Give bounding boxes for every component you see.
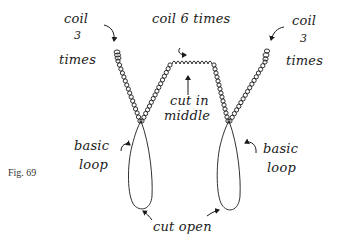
arrow-left-coil xyxy=(104,25,114,41)
left-coil-label-line2: 3 xyxy=(74,30,81,41)
right-loop-label-line1: basic xyxy=(263,142,298,155)
figure-caption: Fig. 69 xyxy=(8,168,36,178)
left-loop-label-line2: loop xyxy=(79,158,108,171)
left-loop-label-line1: basic xyxy=(74,139,109,152)
right-coil-label-line3: times xyxy=(286,54,323,67)
middle-coil xyxy=(172,61,212,64)
middle-coil-label: coil 6 times xyxy=(152,12,230,25)
left-coil-label-line3: times xyxy=(59,53,96,66)
cut-open-label: cut open xyxy=(153,220,212,233)
right-end-coil xyxy=(263,49,270,61)
arrow-right-loop xyxy=(245,142,256,153)
arrow-middle-coil xyxy=(179,48,186,55)
right-coil-label-line1: coil xyxy=(292,14,316,27)
wire-loop-diagram: coil 3 times coil 6 times coil 3 times c… xyxy=(0,0,338,243)
left-basic-loop xyxy=(128,121,152,209)
arrow-left-loop xyxy=(121,144,130,151)
left-coil-label-line1: coil xyxy=(64,12,88,25)
right-coil-label-line2: 3 xyxy=(300,33,307,44)
right-loop-label-line2: loop xyxy=(267,161,296,174)
cut-middle-label-line2: middle xyxy=(164,109,210,122)
arrow-cut-open-right xyxy=(207,210,219,216)
cut-middle-label-line1: cut in xyxy=(170,94,209,107)
arrow-right-coil xyxy=(271,27,284,40)
arrow-cut-open-left xyxy=(143,211,152,220)
right-basic-loop xyxy=(217,121,240,210)
